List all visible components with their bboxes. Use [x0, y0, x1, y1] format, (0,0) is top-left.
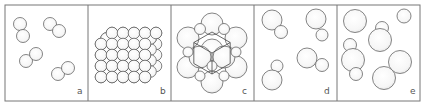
- atom-sphere: [117, 27, 129, 39]
- atom-sphere: [117, 71, 129, 83]
- atom-sphere: [106, 71, 118, 83]
- atom-sphere: [195, 24, 206, 35]
- large-atom: [297, 48, 317, 68]
- small-atom: [316, 29, 328, 41]
- atom-sphere: [53, 25, 66, 38]
- panel-label-e: e: [410, 86, 416, 96]
- panel-label-a: a: [77, 86, 83, 96]
- atom-sphere: [95, 49, 107, 61]
- atom-sphere: [17, 30, 30, 43]
- atom-sphere: [62, 62, 75, 75]
- large-atom: [306, 9, 326, 29]
- atom-sphere: [219, 71, 229, 81]
- atom-sphere: [397, 9, 411, 23]
- small-atom: [316, 59, 329, 72]
- atom-sphere: [231, 47, 241, 57]
- panel-label-c: c: [242, 86, 247, 96]
- atom-sphere: [117, 49, 129, 61]
- atom-sphere: [117, 38, 129, 50]
- atom-sphere: [344, 10, 367, 33]
- atom-sphere: [106, 38, 118, 50]
- atom-sphere: [139, 60, 151, 72]
- panel-label-d: d: [324, 86, 330, 96]
- atom-sphere: [106, 27, 118, 39]
- panel-label-b: b: [160, 86, 166, 96]
- atom-sphere: [14, 18, 27, 31]
- atom-sphere: [128, 49, 140, 61]
- atom-sphere: [106, 49, 118, 61]
- atom-sphere: [117, 60, 129, 72]
- atom-sphere: [95, 60, 107, 72]
- atom-sphere: [373, 67, 396, 90]
- atom-sphere: [128, 38, 140, 50]
- atom-sphere: [350, 68, 363, 81]
- atom-sphere: [95, 38, 107, 50]
- atom-sphere: [30, 48, 43, 61]
- atom-sphere: [195, 71, 205, 81]
- close-packed-lattice: [95, 27, 162, 83]
- figure: a b c d e: [0, 0, 428, 106]
- small-atom: [275, 26, 288, 39]
- atom-sphere: [219, 24, 230, 35]
- atom-sphere: [139, 71, 151, 83]
- atom-sphere: [128, 27, 140, 39]
- atom-sphere: [139, 27, 151, 39]
- atom-sphere: [183, 47, 193, 57]
- atom-sphere: [139, 38, 151, 50]
- atom-sphere: [150, 27, 162, 39]
- atom-sphere: [128, 71, 140, 83]
- atom-sphere: [128, 60, 140, 72]
- atom-sphere: [95, 71, 107, 83]
- atom-sphere: [139, 49, 151, 61]
- large-atom: [262, 70, 282, 90]
- atom-sphere: [106, 60, 118, 72]
- atom-sphere: [369, 29, 392, 52]
